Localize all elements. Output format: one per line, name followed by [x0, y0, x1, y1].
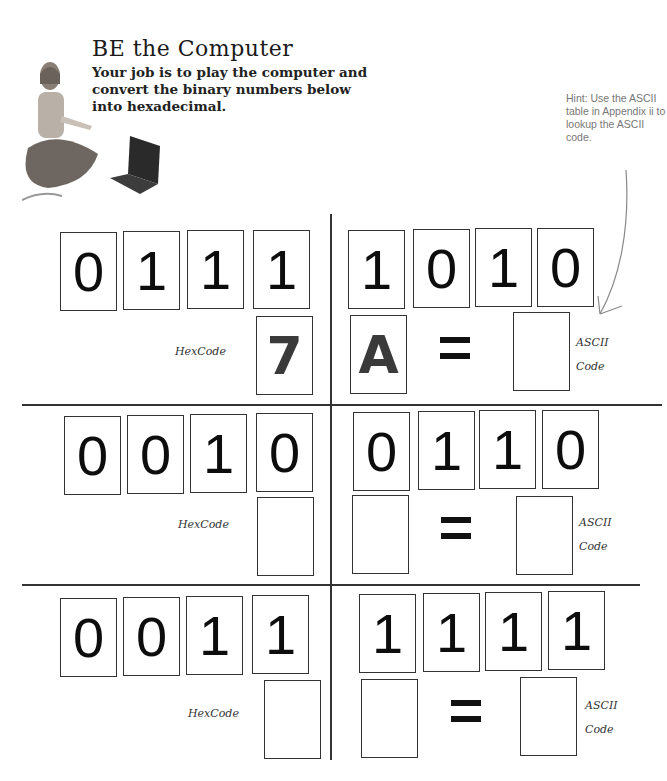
ascii-label: ASCII [585, 699, 618, 712]
bit-box: 1 [252, 595, 309, 674]
hint-arrow-icon [590, 168, 634, 320]
page-title: BE the Computer [92, 36, 293, 61]
equals-sign [440, 337, 470, 359]
bit-box: 1 [423, 593, 480, 672]
column-divider [330, 214, 332, 760]
bit-box: 0 [256, 413, 313, 492]
bit-box: 0 [413, 229, 470, 308]
hex-code-label: HexCode [188, 707, 239, 720]
bit-box: 0 [537, 228, 594, 307]
bit-box: 1 [359, 594, 416, 673]
bit-box: 1 [418, 411, 475, 490]
laptop-illustration [108, 134, 164, 196]
bit-box: 1 [190, 414, 247, 493]
bit-box: 0 [60, 598, 117, 677]
bit-box: 1 [186, 596, 243, 675]
hex-answer-box[interactable]: 7 [256, 316, 313, 395]
ascii-code-label: Code [579, 540, 608, 553]
ascii-code-label: Code [585, 723, 614, 736]
bit-box: 0 [123, 597, 180, 676]
bit-box: 0 [127, 415, 184, 494]
bit-box: 1 [485, 592, 542, 671]
instructions-text: Your job is to play the computer and con… [92, 64, 382, 115]
bit-box: 1 [475, 228, 532, 307]
bit-box: 0 [542, 410, 599, 489]
ascii-answer-box[interactable] [520, 677, 577, 756]
bit-box: 1 [348, 230, 405, 309]
meditating-person-illustration [22, 56, 102, 206]
ascii-code-label: Code [576, 360, 605, 373]
ascii-answer-box[interactable] [516, 496, 573, 575]
equals-sign [451, 700, 481, 722]
hex-answer-box[interactable] [352, 495, 409, 574]
bit-box: 0 [60, 232, 117, 311]
bit-box: 1 [123, 231, 180, 310]
hex-answer-box[interactable] [264, 680, 321, 759]
hint-note: Hint: Use the ASCII table in Appendix ii… [566, 92, 666, 144]
bit-box: 1 [253, 230, 310, 309]
bit-box: 0 [64, 416, 121, 495]
bit-box: 1 [548, 591, 605, 670]
bit-box: 1 [479, 410, 536, 489]
bit-box: 1 [187, 230, 244, 309]
row-divider-1 [22, 404, 662, 406]
hex-answer-box[interactable] [361, 679, 418, 758]
hex-answer-box[interactable]: A [350, 315, 407, 394]
hex-code-label: HexCode [175, 345, 226, 358]
equals-sign [441, 517, 471, 539]
bit-box: 0 [353, 412, 410, 491]
row-divider-2 [22, 584, 640, 586]
ascii-label: ASCII [579, 516, 612, 529]
hex-code-label: HexCode [178, 518, 229, 531]
ascii-answer-box[interactable] [513, 312, 570, 391]
hex-answer-box[interactable] [257, 497, 314, 576]
ascii-label: ASCII [576, 336, 609, 349]
